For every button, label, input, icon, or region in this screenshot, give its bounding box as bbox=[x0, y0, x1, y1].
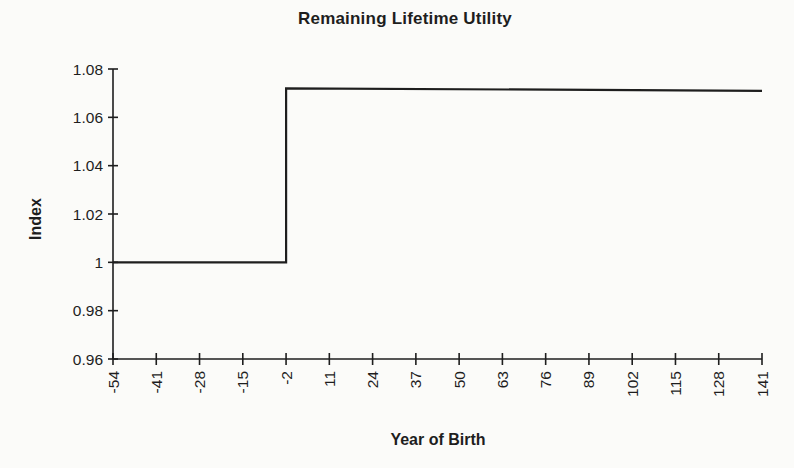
x-tick-label: 141 bbox=[754, 371, 771, 397]
y-tick-label: 1.04 bbox=[73, 157, 104, 174]
x-tick-label: 89 bbox=[580, 371, 597, 388]
x-tick-label: -15 bbox=[234, 371, 251, 393]
x-tick-label: -41 bbox=[148, 371, 165, 393]
x-axis-title: Year of Birth bbox=[113, 431, 763, 449]
y-tick-label: 0.98 bbox=[73, 302, 103, 319]
x-tick-label: 63 bbox=[494, 371, 511, 388]
x-tick-label: 50 bbox=[451, 371, 468, 389]
plot-area: 1.081.061.041.0210.980.96-54-41-28-15-21… bbox=[0, 0, 794, 468]
chart-figure: Remaining Lifetime Utility Index 1.081.0… bbox=[0, 0, 794, 468]
x-tick-label: 102 bbox=[624, 371, 641, 397]
x-tick-label: 11 bbox=[321, 371, 338, 387]
x-tick-label: 37 bbox=[407, 371, 424, 388]
x-tick-label: -28 bbox=[191, 371, 208, 393]
x-tick-label: -54 bbox=[105, 371, 122, 394]
y-tick-label: 1.06 bbox=[73, 109, 103, 126]
y-tick-label: 1.02 bbox=[73, 206, 103, 223]
series-line bbox=[113, 88, 762, 262]
x-tick-label: 24 bbox=[364, 371, 381, 389]
x-tick-label: 128 bbox=[710, 371, 727, 397]
x-tick-label: 76 bbox=[537, 371, 554, 388]
x-tick-label: 115 bbox=[667, 371, 684, 396]
y-tick-label: 1.08 bbox=[73, 61, 103, 78]
x-tick-label: -2 bbox=[278, 371, 295, 385]
y-tick-label: 1 bbox=[94, 254, 103, 271]
y-tick-label: 0.96 bbox=[73, 351, 103, 368]
